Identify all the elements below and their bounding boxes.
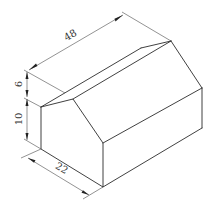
dimension-label-6: 6 — [13, 81, 24, 87]
dimension-10: 10 — [13, 99, 41, 149]
back-gable-slope — [141, 41, 171, 48]
dimension-line — [29, 15, 123, 70]
back-roof-right-edge — [171, 41, 202, 88]
extension-line — [122, 12, 171, 41]
roof-ridge-edge — [73, 41, 171, 99]
dimension-label-10: 10 — [13, 113, 24, 126]
dimension-22: 22 — [21, 149, 103, 199]
arrow-icon — [26, 72, 29, 79]
dimension-label-48: 48 — [62, 27, 79, 43]
dimension-label-22: 22 — [54, 160, 71, 176]
arrow-icon — [28, 158, 36, 163]
extension-line — [24, 139, 41, 149]
isometric-drawing: 48 6 10 22 — [0, 0, 214, 213]
arrow-icon — [115, 15, 124, 22]
front-gable-outline — [41, 99, 103, 187]
bottom-right-edge — [103, 128, 202, 187]
extension-line — [24, 70, 65, 93]
right-eave-edge — [103, 88, 202, 143]
roof-left-eave-edge — [41, 48, 141, 107]
arrow-icon — [82, 190, 90, 195]
arrow-icon — [29, 64, 38, 71]
arrow-icon — [26, 90, 29, 97]
arrow-icon — [26, 133, 29, 140]
dimension-48: 48 — [24, 12, 171, 93]
extension-line — [21, 149, 41, 158]
